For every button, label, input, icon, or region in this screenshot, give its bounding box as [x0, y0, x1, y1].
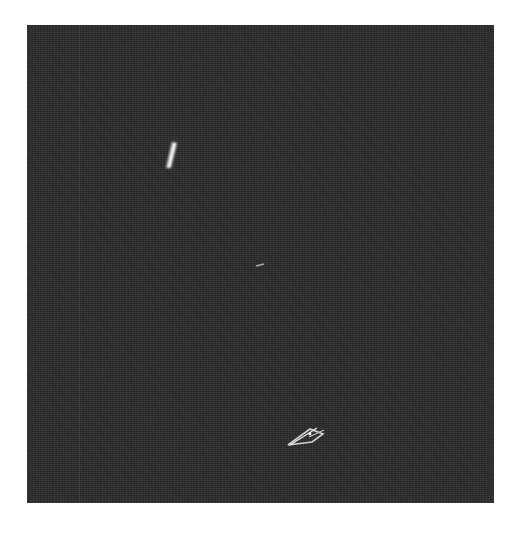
upper-left-streak	[166, 142, 177, 168]
center-faint-streak	[256, 264, 264, 266]
streak-features	[27, 25, 494, 503]
dark-noise-frame	[27, 25, 494, 503]
lower-arrow-streak	[288, 428, 324, 445]
image-description: Grayscale noisy dark frame with three br…	[0, 0, 1, 1]
image-canvas: Grayscale noisy dark frame with three br…	[0, 0, 518, 535]
